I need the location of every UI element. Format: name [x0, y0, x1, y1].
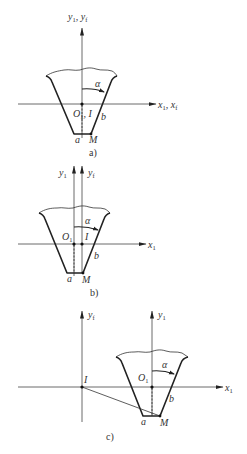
- angle-label-a: α: [95, 78, 101, 89]
- panel-a: y1, yf x1, xf O1, I α b a M a): [18, 11, 178, 159]
- point-a-label-b: a: [67, 273, 72, 284]
- yf-axis-label-c: yf: [87, 309, 95, 321]
- panel-c: yf y1 x1 O1 I α b a M c): [18, 309, 233, 443]
- origin-label-c: O1: [138, 372, 148, 384]
- diagram-figure: y1, yf x1, xf O1, I α b a M a) y1 yf x1 …: [0, 0, 247, 454]
- y-axis-label-a: y1, yf: [67, 11, 88, 23]
- point-a-label-a: a: [75, 134, 80, 145]
- point-b-label-a: b: [101, 111, 106, 122]
- origin-point-a: [80, 102, 83, 105]
- panel-b: y1 yf x1 O1 I α b a M b): [18, 166, 156, 299]
- diagram-canvas: y1, yf x1, xf O1, I α b a M a) y1 yf x1 …: [0, 0, 247, 454]
- x-axis-label-b: x1: [147, 239, 156, 251]
- angle-arc-b: [74, 227, 98, 230]
- origin-point-b: [72, 242, 75, 245]
- y1-axis-label-c: y1: [157, 309, 166, 321]
- angle-label-b: α: [85, 215, 91, 226]
- x-axis-label-a: x1, xf: [157, 99, 178, 111]
- pitch-point-c: [80, 385, 83, 388]
- pitch-point-label-b: I: [84, 231, 89, 242]
- line-I-to-M-c: [82, 387, 160, 416]
- point-a-label-c: a: [141, 416, 146, 427]
- point-b-label-b: b: [94, 250, 99, 261]
- angle-label-c: α: [162, 359, 168, 370]
- pitch-point-b: [80, 242, 83, 245]
- tooth-top-wave-b: [39, 206, 110, 213]
- point-M-label-b: M: [81, 274, 91, 285]
- caption-a: a): [89, 147, 97, 159]
- angle-arc-c: [152, 371, 174, 374]
- caption-b: b): [90, 287, 98, 299]
- point-M-label-c: M: [159, 417, 169, 428]
- origin-label-b: O1: [62, 231, 72, 243]
- angle-arc-a: [82, 89, 104, 92]
- yf-axis-label-b: yf: [87, 167, 95, 179]
- x-axis-label-c: x1: [224, 382, 233, 394]
- pitch-point-label-c: I: [83, 374, 88, 385]
- origin-label-a: O1, I: [73, 108, 92, 120]
- caption-c: c): [106, 431, 114, 443]
- origin-point-c: [150, 385, 153, 388]
- point-M-label-a: M: [88, 134, 98, 145]
- tooth-top-wave-a: [46, 68, 117, 76]
- point-b-label-c: b: [169, 393, 174, 404]
- y1-axis-label-b: y1: [58, 167, 67, 179]
